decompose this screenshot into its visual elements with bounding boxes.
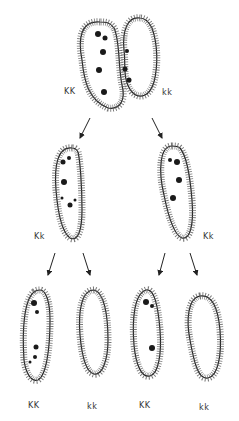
label-g3-3: KK — [139, 401, 151, 410]
label-g1-right: kk — [162, 88, 172, 97]
arrow-g1-to-g2-right — [152, 118, 162, 138]
cell-g1-left — [80, 22, 123, 108]
cell-g1-right — [123, 18, 157, 96]
particle — [125, 49, 129, 53]
cell-g2-right — [161, 146, 193, 238]
label-g2-right: Kk — [203, 232, 214, 241]
label-g3-1: KK — [28, 401, 40, 410]
cell-g3-3 — [133, 290, 160, 376]
particle — [101, 89, 107, 95]
arrow-g1-to-g2-left — [80, 118, 90, 138]
cell-g3-4 — [188, 296, 220, 378]
label-g3-2: kk — [87, 402, 97, 411]
cell-g2-left — [56, 148, 82, 239]
diagram-canvas — [0, 0, 239, 421]
particle — [103, 36, 108, 41]
particle — [127, 78, 132, 83]
particle — [123, 67, 128, 72]
cell-g3-1 — [23, 290, 50, 380]
label-g1-left: KK — [64, 87, 76, 96]
particle — [95, 31, 101, 37]
label-g3-4: kk — [199, 403, 209, 412]
label-g2-left: Kk — [34, 232, 45, 241]
particle — [96, 67, 102, 73]
cell-g3-2 — [80, 290, 108, 374]
particle — [100, 49, 106, 55]
